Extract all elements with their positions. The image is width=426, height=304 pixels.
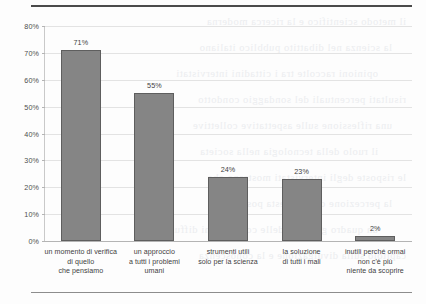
y-axis-tick-label: 0%: [28, 237, 39, 246]
category-label-line: un momento di verifica: [45, 248, 117, 258]
bar[interactable]: [282, 179, 322, 241]
category-label-line: umani: [129, 267, 180, 277]
category-label-line: a tutti i problemi: [129, 258, 180, 268]
y-axis-tick: [42, 53, 45, 54]
category-label-line: niente da scoprire: [345, 267, 406, 277]
bar[interactable]: [61, 50, 101, 241]
y-axis-tick-label: 80%: [24, 22, 39, 31]
bar-value-label: 23%: [294, 167, 309, 176]
y-axis-tick: [42, 26, 45, 27]
y-axis-tick: [42, 107, 45, 108]
x-axis-category-label: inutili perché ormainon c'è piùniente da…: [345, 248, 406, 277]
y-axis-tick-label: 30%: [24, 156, 39, 165]
y-axis-tick: [42, 187, 45, 188]
category-label-line: di quello: [45, 258, 117, 268]
x-axis-category-label: un momento di verificadi quelloche pensi…: [45, 248, 117, 277]
category-label-line: inutili perché ormai: [345, 248, 406, 258]
gridline-80%: [44, 26, 412, 27]
category-label-line: non c'è più: [345, 258, 406, 268]
category-label-line: solo per la scienza: [198, 258, 258, 268]
y-axis-tick-label: 50%: [24, 102, 39, 111]
category-label-line: che pensiamo: [45, 267, 117, 277]
x-axis-category-label: la soluzionedi tutti i mali: [282, 248, 320, 267]
x-axis-line: [44, 241, 412, 242]
rule-bottom: [31, 292, 412, 293]
bar-value-label: 24%: [221, 165, 236, 174]
category-label-line: di tutti i mali: [282, 258, 320, 268]
y-axis-tick-label: 70%: [24, 48, 39, 57]
y-axis-tick-label: 60%: [24, 75, 39, 84]
x-axis-category-label: strumenti utilisolo per la scienza: [198, 248, 258, 267]
y-axis-tick: [42, 160, 45, 161]
bar-chart-plot-area: 0%10%20%30%40%50%60%70%80% 71%55%24%23%2…: [44, 26, 412, 242]
y-axis-tick-label: 20%: [24, 183, 39, 192]
bar[interactable]: [355, 236, 395, 241]
bar-value-label: 71%: [73, 38, 88, 47]
bar[interactable]: [208, 177, 248, 242]
chart-page: il metodo scientifico e la ricerca moder…: [0, 0, 426, 304]
y-axis-tick: [42, 241, 45, 242]
y-axis-tick: [42, 134, 45, 135]
bar[interactable]: [134, 93, 174, 241]
bar-value-label: 55%: [147, 81, 162, 90]
x-axis-category-label: un approccioa tutti i problemiumani: [129, 248, 180, 277]
bar-value-label: 2%: [370, 224, 381, 233]
category-label-line: la soluzione: [282, 248, 320, 258]
category-label-line: un approccio: [129, 248, 180, 258]
y-axis-tick-label: 40%: [24, 129, 39, 138]
y-axis-tick-label: 10%: [24, 210, 39, 219]
category-label-line: strumenti utili: [198, 248, 258, 258]
y-axis-tick: [42, 80, 45, 81]
rule-top: [31, 5, 412, 7]
y-axis-tick: [42, 214, 45, 215]
